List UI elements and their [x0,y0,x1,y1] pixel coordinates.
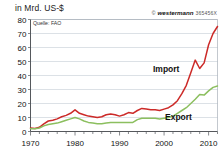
series-label-export: Export [165,112,192,122]
y-tick-label: 60 [18,44,27,53]
x-axis: 19701980199020002010 [22,132,218,148]
chart-svg: 01020304050607080 19701980199020002010 I… [0,0,220,152]
y-tick-label: 70 [18,30,27,39]
plot-area: 01020304050607080 19701980199020002010 I… [0,0,220,152]
series-annotations: ImportExport [153,64,192,122]
y-tick-label: 50 [18,58,27,67]
series-line-export [31,86,218,129]
y-tick-label: 10 [18,114,27,123]
y-tick-label: 0 [22,128,27,137]
chart-container: in Mrd. US-$ © westermann 365456X Quelle… [0,0,220,152]
y-tick-label: 30 [18,86,27,95]
y-tick-label: 80 [18,16,27,25]
series-label-import: Import [153,64,180,74]
x-tick-label: 2000 [155,139,173,148]
y-tick-label: 40 [18,72,27,81]
gridlines [31,20,218,118]
y-axis: 01020304050607080 [18,16,31,137]
x-tick-label: 2010 [200,139,218,148]
x-tick-label: 1970 [22,139,40,148]
y-tick-label: 20 [18,100,27,109]
x-tick-label: 1980 [66,139,84,148]
x-tick-label: 1990 [111,139,129,148]
